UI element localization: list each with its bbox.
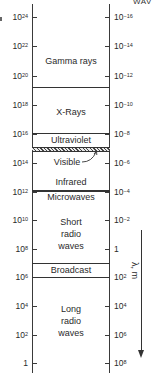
wavelength-tick-label: 104 [114,301,127,311]
frequency-tick [32,363,37,364]
wavelength-tick-label: 10−12 [114,71,133,81]
frequency-tick [32,76,37,77]
frequency-tick-label: 1020 [12,71,28,81]
short-label-3: waves [32,241,110,252]
frequency-tick-label: 108 [15,244,28,254]
frequency-tick-label: 1 [23,358,28,368]
ultraviolet-label: Ultraviolet [32,135,110,146]
wavelength-tick-label: 10−4 [114,187,130,197]
frequency-tick-label: 106 [15,272,28,282]
arrow-down-icon [138,350,144,358]
frequency-tick-label: 1016 [12,129,28,139]
short-label-1: Short [32,217,110,228]
broadcast-label: Broadcast [32,265,110,276]
frequency-tick-label: 1018 [12,100,28,110]
wavelength-tick-label: 10−16 [114,12,133,22]
wavelength-tick [105,17,110,18]
wavelength-tick [105,76,110,77]
wavelength-tick [105,46,110,47]
frequency-tick-label: 1010 [12,215,28,225]
gamma-rays-label: Gamma rays [32,56,110,67]
wavelength-tick-label: 10−14 [114,41,133,51]
wavelength-tick-label: 102 [114,272,127,282]
frequency-tick-label: 102 [15,330,28,340]
edge-mark [0,17,2,21]
infrared-label: Infrared [32,177,110,188]
wavelength-arrow-label: λ, m [130,262,140,279]
microwaves-label: Microwaves [32,192,110,203]
long-label-3: waves [32,328,110,339]
frequency-tick [32,46,37,47]
frequency-tick-label: 1012 [12,187,28,197]
frequency-tick-label: 1024 [12,12,28,22]
wavelength-tick-label: 10−10 [114,100,133,110]
wavelength-tick-label: 10−8 [114,129,130,139]
header-partial: WAV [133,0,152,6]
long-label-2: radio [32,316,110,327]
frequency-tick [32,17,37,18]
visible-pointer-icon [80,150,100,166]
frequency-tick [32,105,37,106]
wavelength-arrow-line [141,230,142,352]
gamma-xray-boundary [32,87,110,88]
short-broadcast-boundary [32,263,110,264]
wavelength-tick-label: 106 [114,330,127,340]
long-label-1: Long [32,304,110,315]
wavelength-tick-label: 1 [114,244,119,254]
broadcast-long-boundary [32,277,110,278]
wavelength-tick-label: 108 [114,358,127,368]
frequency-tick-label: 104 [15,301,28,311]
wavelength-tick [105,105,110,106]
wavelength-tick [105,363,110,364]
wavelength-tick-label: 10−2 [114,215,130,225]
xray-uv-boundary [32,133,110,134]
xrays-label: X-Rays [32,107,110,118]
short-label-2: radio [32,229,110,240]
frequency-tick-label: 1022 [12,41,28,51]
wavelength-tick-label: 10−6 [114,158,130,168]
frequency-tick-label: 1014 [12,158,28,168]
